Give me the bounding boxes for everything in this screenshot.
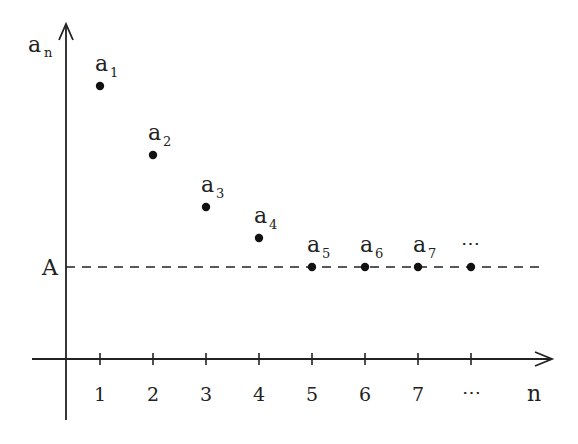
point-label-sub: 5	[322, 246, 330, 261]
point-label: a	[254, 203, 267, 228]
point-label: a	[148, 120, 161, 145]
point-label-sub: 1	[110, 65, 118, 80]
point-label: a	[307, 232, 320, 257]
point-a3	[202, 203, 210, 211]
point-label: a	[201, 172, 214, 197]
tick-label: 6	[359, 383, 371, 405]
point-label-sub: 4	[269, 217, 277, 232]
y-axis-label-sub: n	[44, 45, 53, 60]
point-label-sub: 6	[375, 246, 383, 261]
point-label-sub: 3	[216, 186, 224, 201]
sequence-limit-diagram: 1 2 3 4 5 6 7 ⋯ a n n A a 1 a 2 a 3 a 4 …	[0, 0, 578, 444]
tick-label: 2	[147, 383, 159, 405]
point-a6	[361, 263, 369, 271]
point-label: a	[413, 232, 426, 257]
point-label: a	[95, 51, 108, 76]
tick-label: 3	[200, 383, 212, 405]
point-label-sub: 7	[428, 246, 436, 261]
limit-label: A	[41, 255, 59, 280]
point-label: a	[360, 232, 373, 257]
point-a2	[149, 151, 157, 159]
point-label: ⋯	[461, 232, 480, 254]
point-ellipsis	[467, 263, 475, 271]
point-a1	[96, 82, 104, 90]
x-tick-labels: 1 2 3 4 5 6 7 ⋯	[94, 381, 481, 405]
tick-label: 4	[253, 383, 265, 405]
point-a5	[308, 263, 316, 271]
tick-label: 5	[306, 383, 318, 405]
point-a4	[255, 234, 263, 242]
point-label-sub: 2	[163, 134, 171, 149]
x-axis-label: n	[527, 381, 541, 406]
point-a7	[414, 263, 422, 271]
tick-label: ⋯	[462, 381, 481, 403]
y-axis-label: a	[28, 32, 41, 57]
tick-label: 7	[412, 383, 424, 405]
tick-label: 1	[94, 383, 106, 405]
